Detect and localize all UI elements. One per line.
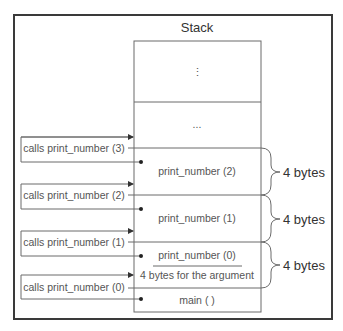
frame-print-number-2: print_number (2) bbox=[158, 165, 236, 177]
call-label-3: calls print_number (3) bbox=[23, 142, 125, 154]
call-box-1: calls print_number (1) bbox=[21, 231, 143, 258]
brace-label-2: 4 bytes bbox=[283, 212, 325, 227]
return-dot-icon bbox=[139, 160, 143, 164]
brace-1: 4 bytes bbox=[261, 148, 325, 195]
curly-brace-icon bbox=[261, 148, 280, 195]
return-dot-icon bbox=[139, 297, 143, 301]
diagram-title: Stack bbox=[181, 20, 214, 35]
frame-print-number-1: print_number (1) bbox=[158, 212, 236, 224]
call-label-2: calls print_number (2) bbox=[23, 189, 125, 201]
stack-diagram: Stack ⋮ ... print_number (2) print_numbe… bbox=[0, 0, 343, 331]
brace-label-3: 4 bytes bbox=[283, 258, 325, 273]
brace-2: 4 bytes bbox=[261, 195, 325, 242]
call-label-0: calls print_number (0) bbox=[23, 281, 125, 293]
frame-argument-bytes: 4 bytes for the argument bbox=[140, 269, 254, 281]
brace-3: 4 bytes bbox=[261, 242, 325, 288]
call-label-1: calls print_number (1) bbox=[23, 236, 125, 248]
stack-top-placeholder: ⋮ bbox=[192, 66, 203, 78]
call-box-3: calls print_number (3) bbox=[21, 137, 143, 164]
call-box-2: calls print_number (2) bbox=[21, 184, 143, 211]
call-box-0: calls print_number (0) bbox=[21, 275, 143, 301]
brace-label-1: 4 bytes bbox=[283, 165, 325, 180]
stack-ellipsis: ... bbox=[193, 118, 202, 130]
return-dot-icon bbox=[139, 207, 143, 211]
curly-brace-icon bbox=[261, 195, 280, 242]
frame-main: main ( ) bbox=[179, 294, 215, 306]
curly-brace-icon bbox=[261, 242, 280, 288]
frame-print-number-0: print_number (0) bbox=[158, 249, 236, 261]
return-dot-icon bbox=[139, 254, 143, 258]
